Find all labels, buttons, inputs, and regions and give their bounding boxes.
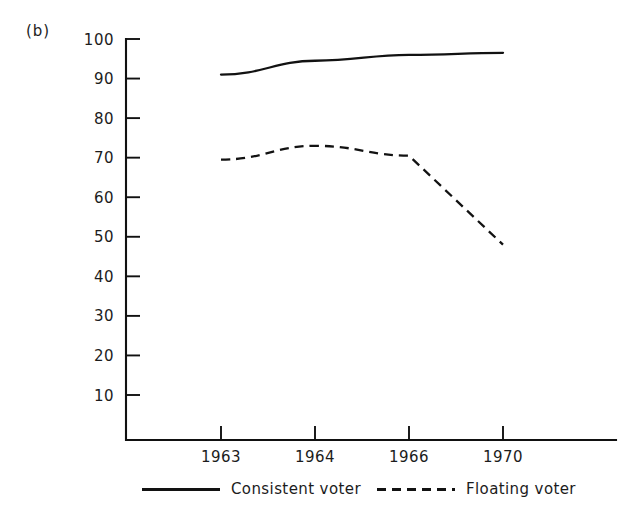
line-chart: 102030405060708090100 1963196419661970 — [0, 0, 633, 470]
legend-label-consistent-voter: Consistent voter — [231, 480, 361, 498]
y-axis-ticks — [126, 39, 140, 395]
y-tick-label: 10 — [94, 387, 114, 405]
x-tick-label: 1970 — [483, 448, 523, 466]
x-axis-ticks — [221, 426, 503, 440]
legend-solid-line-icon — [142, 488, 220, 491]
series-line-consistent-voter — [221, 53, 503, 75]
y-tick-label: 90 — [94, 70, 114, 88]
legend-entry-floating-voter: Floating voter — [377, 480, 576, 498]
x-tick-label: 1966 — [389, 448, 429, 466]
y-tick-label: 60 — [94, 189, 114, 207]
x-tick-label: 1964 — [295, 448, 335, 466]
y-tick-label: 30 — [94, 307, 114, 325]
y-tick-label: 50 — [94, 228, 114, 246]
figure-panel-b: (b) 102030405060708090100 19631964196619… — [0, 0, 633, 516]
y-tick-label: 40 — [94, 268, 114, 286]
y-tick-label: 100 — [84, 31, 114, 49]
y-tick-label: 80 — [94, 110, 114, 128]
legend-dashed-line-icon — [377, 488, 455, 491]
axis-spines — [126, 39, 616, 440]
x-axis-tick-labels: 1963196419661970 — [201, 448, 523, 466]
legend-label-floating-voter: Floating voter — [466, 480, 576, 498]
series-line-floating-voter — [221, 146, 503, 245]
y-axis-tick-labels: 102030405060708090100 — [84, 31, 114, 405]
y-tick-label: 20 — [94, 347, 114, 365]
x-tick-label: 1963 — [201, 448, 241, 466]
y-tick-label: 70 — [94, 149, 114, 167]
chart-legend: Consistent voter Floating voter — [0, 476, 633, 510]
legend-entry-consistent-voter: Consistent voter — [142, 480, 361, 498]
